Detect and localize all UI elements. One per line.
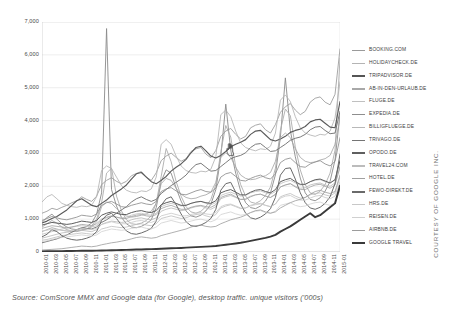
x-tick-label: 2012-01: [163, 254, 168, 274]
x-tick-label: 2011-07: [133, 254, 138, 273]
x-tick-label: 2014-05: [302, 254, 307, 274]
legend-color-swatch: [352, 101, 365, 102]
legend-item-trivago-de[interactable]: TRIVAGO.DE: [352, 134, 448, 147]
y-tick-label: 2,000: [5, 183, 39, 189]
x-tick-label: 2012-07: [193, 254, 198, 274]
y-tick-label: 4,000: [5, 118, 39, 124]
legend-color-swatch: [352, 204, 365, 205]
x-tick-label: 2010-01: [44, 254, 49, 274]
legend-color-swatch: [352, 114, 365, 115]
legend-item-label: BOOKING.COM: [369, 48, 406, 53]
y-tick-label: 7,000: [5, 19, 39, 25]
legend-item-label: EXPEDIA.DE: [369, 112, 400, 117]
chart-figure: 01,0002,0003,0004,0005,0006,0007,000 201…: [0, 0, 454, 321]
legend-item-label: TRIPADVISOR.DE: [369, 74, 412, 79]
x-tick-label: 2014-03: [292, 254, 297, 274]
y-tick-label: 0: [5, 249, 39, 255]
legend-item-label: AB-IN-DEN-URLAUB.DE: [369, 87, 426, 92]
legend-color-swatch: [352, 127, 365, 128]
x-tick-label: 2014-07: [312, 254, 317, 274]
legend-item-label: TRIVAGO.DE: [369, 138, 400, 143]
plot-area: [42, 22, 340, 252]
legend-item-label: AIRBNB.DE: [369, 228, 397, 233]
courtesy-credit: COURTESY OF GOOGLE INC.: [432, 150, 439, 258]
x-tick-label: 2012-11: [213, 254, 218, 273]
x-tick-label: 2012-09: [203, 254, 208, 274]
hand-pointer-cursor-icon: [226, 143, 236, 156]
legend-item-holidaycheck-de[interactable]: HOLIDAYCHECK.DE: [352, 57, 448, 70]
y-tick-label: 5,000: [5, 85, 39, 91]
source-caption: Source: ComScore MMX and Google data (fo…: [12, 293, 323, 302]
legend-item-label: HOLIDAYCHECK.DE: [369, 61, 418, 66]
legend-item-label: HRS.DE: [369, 202, 388, 207]
x-tick-label: 2010-09: [84, 254, 89, 274]
y-tick-label: 1,000: [5, 216, 39, 222]
legend-color-swatch: [352, 217, 365, 218]
legend-item-tripadvisor-de[interactable]: TRIPADVISOR.DE: [352, 70, 448, 83]
line-chart-svg: [42, 22, 340, 252]
x-tick-label: 2014-11: [332, 254, 337, 273]
legend-item-label: BILLIGFLUEGE.DE: [369, 125, 414, 130]
x-tick-label: 2013-01: [223, 254, 228, 274]
y-tick-label: 3,000: [5, 150, 39, 156]
legend-item-label: REISEN.DE: [369, 215, 397, 220]
x-tick-label: 2015-01: [342, 254, 347, 274]
x-tick-label: 2013-09: [263, 254, 268, 274]
x-tick-label: 2011-03: [114, 254, 119, 273]
y-axis: 01,0002,0003,0004,0005,0006,0007,000: [0, 0, 39, 252]
x-tick-label: 2013-05: [243, 254, 248, 274]
x-tick-label: 2013-03: [233, 254, 238, 274]
x-tick-label: 2010-05: [64, 254, 69, 274]
x-tick-label: 2011-01: [104, 254, 109, 273]
x-tick-label: 2013-11: [272, 254, 277, 273]
legend-color-swatch: [352, 178, 365, 179]
x-tick-label: 2010-07: [74, 254, 79, 274]
x-tick-label: 2011-09: [143, 254, 148, 273]
x-tick-label: 2014-01: [282, 254, 287, 274]
legend-item-label: HOTEL.DE: [369, 176, 395, 181]
x-tick-label: 2011-05: [123, 254, 128, 273]
legend-color-swatch: [352, 50, 365, 51]
legend-item-fluge-de[interactable]: FLUGE.DE: [352, 95, 448, 108]
legend-color-swatch: [352, 165, 365, 166]
x-tick-label: 2010-03: [54, 254, 59, 274]
x-tick-label: 2010-11: [94, 254, 99, 273]
legend-item-booking-com[interactable]: BOOKING.COM: [352, 44, 448, 57]
legend-item-billigfluege-de[interactable]: BILLIGFLUEGE.DE: [352, 121, 448, 134]
legend-color-swatch: [352, 88, 365, 89]
x-tick-label: 2011-11: [153, 254, 158, 273]
y-tick-label: 6,000: [5, 52, 39, 58]
legend-item-label: TRAVEL24.COM: [369, 164, 408, 169]
x-tick-label: 2012-05: [183, 254, 188, 274]
x-tick-label: 2013-07: [253, 254, 258, 274]
legend-item-label: FEWO-DIREKT.DE: [369, 189, 413, 194]
legend-color-swatch: [352, 152, 365, 154]
legend-item-label: GOOGLE TRAVEL: [369, 241, 412, 246]
legend-item-ab-in-den-urlaub-de[interactable]: AB-IN-DEN-URLAUB.DE: [352, 83, 448, 96]
x-tick-label: 2014-09: [322, 254, 327, 274]
legend-color-swatch: [352, 140, 365, 141]
x-tick-label: 2012-03: [173, 254, 178, 274]
legend-color-swatch: [352, 242, 365, 245]
legend-item-expedia-de[interactable]: EXPEDIA.DE: [352, 108, 448, 121]
legend-color-swatch: [352, 191, 365, 193]
legend-color-swatch: [352, 63, 365, 64]
legend-color-swatch: [352, 230, 365, 231]
legend-item-label: FLUGE.DE: [369, 99, 395, 104]
legend-item-label: OPODO.DE: [369, 151, 397, 156]
x-axis: 2010-012010-032010-052010-072010-092010-…: [42, 254, 340, 288]
legend-color-swatch: [352, 75, 365, 77]
